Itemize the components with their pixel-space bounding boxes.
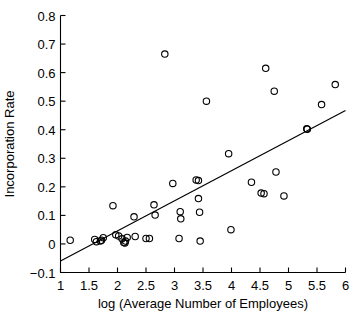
x-tick-label: 2.5 [137, 278, 155, 293]
y-tick-label: 0 [48, 237, 55, 252]
data-point [332, 81, 338, 87]
x-tick-label: 4 [228, 278, 235, 293]
y-tick-label: 0.6 [37, 66, 55, 81]
data-point [263, 65, 269, 71]
data-point [67, 237, 73, 243]
y-tick-label: 0.3 [37, 151, 55, 166]
data-point [177, 208, 183, 214]
data-point [281, 193, 287, 199]
y-tick-label: 0.5 [37, 94, 55, 109]
y-tick-label: 0.4 [37, 123, 55, 138]
x-tick-label: 5 [285, 278, 292, 293]
x-axis-title: log (Average Number of Employees) [98, 296, 308, 311]
y-tick-label: −0.1 [30, 266, 56, 281]
data-point [273, 169, 279, 175]
data-point [196, 209, 202, 215]
x-tick-label: 1 [57, 278, 64, 293]
data-point [228, 226, 234, 232]
data-point [318, 101, 324, 107]
x-tick-label: 2 [114, 278, 121, 293]
x-axis-tick-labels: 11.522.533.544.555.56 [57, 278, 349, 293]
data-point [195, 195, 201, 201]
x-tick-label: 3 [171, 278, 178, 293]
data-point [132, 233, 138, 239]
data-point [110, 202, 116, 208]
data-point [170, 180, 176, 186]
data-point [176, 235, 182, 241]
plot-canvas: −0.100.10.20.30.40.50.60.70.8 11.522.533… [0, 0, 361, 320]
y-tick-label: 0.8 [37, 9, 55, 24]
x-tick-label: 3.5 [194, 278, 212, 293]
data-point [225, 151, 231, 157]
data-point [271, 88, 277, 94]
y-tick-label: 0.7 [37, 37, 55, 52]
data-point [178, 216, 184, 222]
data-points-group [67, 51, 338, 246]
data-point [131, 214, 137, 220]
x-tick-label: 5.5 [308, 278, 326, 293]
data-point [162, 51, 168, 57]
y-axis-tick-labels: −0.100.10.20.30.40.50.60.70.8 [30, 9, 56, 281]
data-point [203, 98, 209, 104]
y-axis-title: Incorporation Rate [2, 91, 17, 198]
data-point [248, 179, 254, 185]
x-tick-label: 4.5 [251, 278, 269, 293]
x-tick-label: 1.5 [80, 278, 98, 293]
scatter-plot-figure: −0.100.10.20.30.40.50.60.70.8 11.522.533… [0, 0, 361, 320]
data-point [151, 202, 157, 208]
data-point [197, 238, 203, 244]
y-tick-label: 0.2 [37, 180, 55, 195]
x-tick-label: 6 [342, 278, 349, 293]
regression-fit-line [61, 111, 346, 261]
y-tick-label: 0.1 [37, 208, 55, 223]
